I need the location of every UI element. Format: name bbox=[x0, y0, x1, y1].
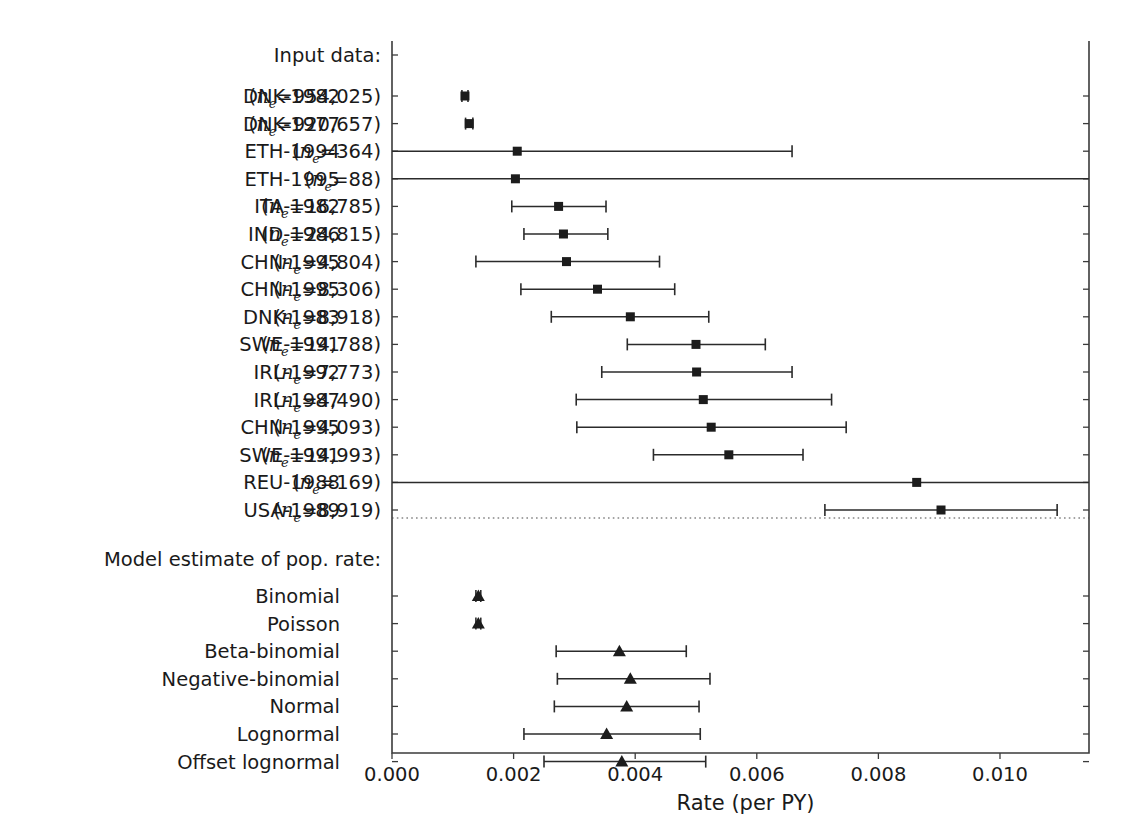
row-label-count: (ne=920,657) bbox=[249, 113, 381, 139]
row-label-count: (ne=169) bbox=[292, 471, 381, 497]
plot-axes-frame bbox=[392, 41, 1089, 753]
row-label-name: Lognormal bbox=[237, 723, 340, 746]
point-estimate-square bbox=[699, 395, 708, 404]
row-label-count: (ne=364) bbox=[292, 140, 381, 166]
row-label-count: (ne=16,785) bbox=[261, 195, 381, 221]
x-axis-title: Rate (per PY) bbox=[677, 791, 815, 815]
row-label-name: Negative-binomial bbox=[162, 668, 340, 691]
row-label-count: (ne=8,918) bbox=[273, 306, 381, 332]
point-estimate-triangle bbox=[472, 590, 485, 602]
x-tick-label: 0.002 bbox=[486, 763, 542, 786]
x-tick-label: 0.008 bbox=[850, 763, 906, 786]
point-estimate-square bbox=[554, 202, 563, 211]
x-tick-label: 0.010 bbox=[972, 763, 1028, 786]
point-estimate-square bbox=[691, 340, 700, 349]
point-estimate-square bbox=[460, 92, 469, 101]
row-label-count: (ne=4,804) bbox=[273, 251, 381, 277]
point-estimate-square bbox=[724, 450, 733, 459]
forest-plot-figure: 0.0000.0020.0040.0060.0080.010Rate (per … bbox=[0, 0, 1145, 833]
row-label-count: (ne=4,093) bbox=[273, 416, 381, 442]
point-estimate-square bbox=[562, 257, 571, 266]
point-estimate-square bbox=[707, 423, 716, 432]
x-tick-label: 0.006 bbox=[729, 763, 785, 786]
point-estimate-square bbox=[559, 230, 568, 239]
forest-plot-svg: 0.0000.0020.0040.0060.0080.010Rate (per … bbox=[0, 0, 1145, 833]
row-label-name: Offset lognormal bbox=[177, 751, 340, 774]
row-label-count: (ne=8,306) bbox=[273, 278, 381, 304]
row-label-name: Beta-binomial bbox=[204, 640, 340, 663]
point-estimate-square bbox=[692, 368, 701, 377]
x-tick-label: 0.000 bbox=[364, 763, 420, 786]
point-estimate-square bbox=[513, 147, 522, 156]
row-label-name: Normal bbox=[269, 695, 340, 718]
point-estimate-square bbox=[626, 312, 635, 321]
point-estimate-square bbox=[465, 119, 474, 128]
row-label-count: (ne=954,025) bbox=[249, 85, 381, 111]
row-label-count: (ne=8,919) bbox=[273, 499, 381, 525]
point-estimate-square bbox=[593, 285, 602, 294]
point-estimate-square bbox=[937, 506, 946, 515]
row-label-name: Poisson bbox=[267, 613, 340, 636]
point-estimate-triangle bbox=[472, 617, 485, 629]
point-estimate-square bbox=[912, 478, 921, 487]
point-estimate-square bbox=[511, 174, 520, 183]
row-label-count: (ne=24,815) bbox=[261, 223, 381, 249]
section-heading-input-data: Input data: bbox=[274, 44, 381, 67]
section-heading-model-estimate: Model estimate of pop. rate: bbox=[104, 548, 381, 571]
row-label-count: (ne=14,788) bbox=[261, 333, 381, 359]
row-label-count: (ne=14,993) bbox=[261, 444, 381, 470]
row-label-count: (ne=4,490) bbox=[273, 389, 381, 415]
row-label-count: (ne=7,773) bbox=[273, 361, 381, 387]
row-label-name: Binomial bbox=[255, 585, 340, 608]
row-label-count: (ne=88) bbox=[304, 168, 381, 194]
